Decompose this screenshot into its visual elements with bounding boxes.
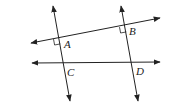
- label-d: D: [135, 65, 144, 77]
- line-ab: [31, 18, 160, 43]
- geometry-figure: A B C D: [0, 0, 173, 112]
- diagram-canvas: A B C D: [0, 0, 173, 112]
- label-b: B: [129, 25, 136, 37]
- line-cd: [32, 62, 160, 63]
- transversal-ac: [53, 6, 70, 101]
- label-a: A: [63, 38, 71, 50]
- label-c: C: [67, 66, 75, 78]
- transversal-bd: [121, 6, 138, 101]
